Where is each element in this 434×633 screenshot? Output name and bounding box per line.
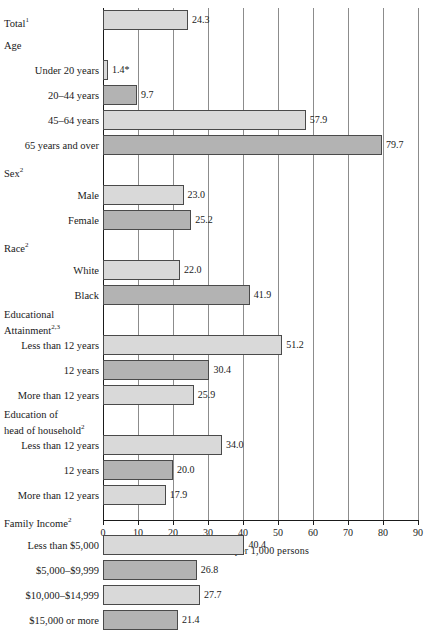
row-label: 12 years bbox=[0, 458, 104, 483]
row-label: White bbox=[0, 258, 104, 283]
bar bbox=[103, 285, 250, 305]
bar-value-label: 34.0 bbox=[222, 435, 244, 455]
row-label: 45–64 years bbox=[0, 108, 104, 133]
row-label: 12 years bbox=[0, 358, 104, 383]
bar-value-label: 57.9 bbox=[306, 110, 328, 130]
bar-value-label: 51.2 bbox=[282, 335, 304, 355]
bar bbox=[103, 585, 200, 605]
row-label: Less than $5,000 bbox=[0, 533, 104, 558]
row-label: $10,000–$14,999 bbox=[0, 583, 104, 608]
row-label: Female bbox=[0, 208, 104, 233]
chart-row: 45–64 years57.9 bbox=[0, 108, 434, 133]
chart-row: Total124.3 bbox=[0, 8, 434, 33]
bar-value-label: 25.2 bbox=[191, 210, 213, 230]
row-label: Less than 12 years bbox=[0, 333, 104, 358]
bar bbox=[103, 560, 197, 580]
chart-row: $5,000–$9,99926.8 bbox=[0, 558, 434, 583]
bar-value-label: 1.4* bbox=[108, 60, 130, 80]
bar-value-label: 17.9 bbox=[166, 485, 188, 505]
bar bbox=[103, 10, 188, 30]
chart-row: Less than 12 years51.2 bbox=[0, 333, 434, 358]
bar bbox=[103, 260, 180, 280]
row-label: EducationalAttainment2,3 bbox=[0, 308, 103, 334]
chart-row: 20–44 years9.7 bbox=[0, 83, 434, 108]
chart-group-header: Race2 bbox=[0, 233, 434, 258]
row-label: Sex2 bbox=[0, 158, 103, 183]
row-label: Age bbox=[0, 33, 103, 58]
bar bbox=[103, 610, 178, 630]
chart-row: 65 years and over79.7 bbox=[0, 133, 434, 158]
chart-group-header: Education ofhead of household2 bbox=[0, 408, 434, 433]
row-label: 20–44 years bbox=[0, 83, 104, 108]
row-label: Family Income2 bbox=[0, 508, 103, 533]
bar-value-label: 27.7 bbox=[200, 585, 222, 605]
chart-row: $10,000–$14,99927.7 bbox=[0, 583, 434, 608]
bar bbox=[103, 110, 306, 130]
bar bbox=[103, 385, 194, 405]
row-label: More than 12 years bbox=[0, 483, 104, 508]
chart-row: Male23.0 bbox=[0, 183, 434, 208]
chart-group-header: Sex2 bbox=[0, 158, 434, 183]
bar bbox=[103, 435, 222, 455]
bar bbox=[103, 185, 184, 205]
chart-group-header: Age bbox=[0, 33, 434, 58]
row-label: Under 20 years bbox=[0, 58, 104, 83]
chart-row: $15,000 or more21.4 bbox=[0, 608, 434, 633]
bar-value-label: 9.7 bbox=[137, 85, 154, 105]
bar bbox=[103, 85, 137, 105]
row-label: $15,000 or more bbox=[0, 608, 104, 633]
bar bbox=[103, 535, 244, 555]
row-label: 65 years and over bbox=[0, 133, 104, 158]
chart-row: More than 12 years25.9 bbox=[0, 383, 434, 408]
bar-value-label: 26.8 bbox=[197, 560, 219, 580]
chart-group-header: Family Income2 bbox=[0, 508, 434, 533]
bar-value-label: 22.0 bbox=[180, 260, 202, 280]
chart-row: Less than $5,00040.4 bbox=[0, 533, 434, 558]
bar bbox=[103, 360, 209, 380]
row-label: Black bbox=[0, 283, 104, 308]
row-label: $5,000–$9,999 bbox=[0, 558, 104, 583]
bar-value-label: 25.9 bbox=[194, 385, 216, 405]
chart-row: Under 20 years1.4* bbox=[0, 58, 434, 83]
bar-value-label: 20.0 bbox=[173, 460, 195, 480]
row-label: Total1 bbox=[0, 8, 103, 33]
row-label: Race2 bbox=[0, 233, 103, 258]
chart-row: More than 12 years17.9 bbox=[0, 483, 434, 508]
bar bbox=[103, 460, 173, 480]
chart-row: Female25.2 bbox=[0, 208, 434, 233]
chart-row: Black41.9 bbox=[0, 283, 434, 308]
row-label: Male bbox=[0, 183, 104, 208]
bar-value-label: 21.4 bbox=[178, 610, 200, 630]
bar-value-label: 24.3 bbox=[188, 10, 210, 30]
bar-value-label: 23.0 bbox=[184, 185, 206, 205]
bar bbox=[103, 210, 191, 230]
chart-row: White22.0 bbox=[0, 258, 434, 283]
chart-group-header: EducationalAttainment2,3 bbox=[0, 308, 434, 333]
bar bbox=[103, 335, 282, 355]
bar-value-label: 30.4 bbox=[209, 360, 231, 380]
bar bbox=[103, 485, 166, 505]
row-label: Less than 12 years bbox=[0, 433, 104, 458]
bar-value-label: 41.9 bbox=[250, 285, 272, 305]
chart-row: 12 years30.4 bbox=[0, 358, 434, 383]
row-label: More than 12 years bbox=[0, 383, 104, 408]
row-label: Education ofhead of household2 bbox=[0, 408, 103, 434]
bar-value-label: 79.7 bbox=[382, 135, 404, 155]
bar-value-label: 40.4 bbox=[244, 535, 266, 555]
chart-row: 12 years20.0 bbox=[0, 458, 434, 483]
chart-row: Less than 12 years34.0 bbox=[0, 433, 434, 458]
bar bbox=[103, 135, 382, 155]
